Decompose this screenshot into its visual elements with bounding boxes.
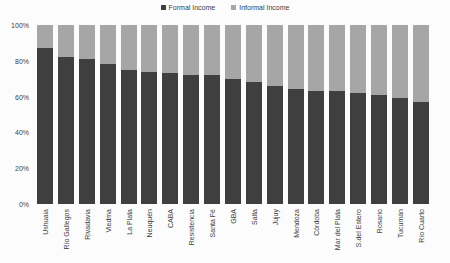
bar-segment-informal bbox=[267, 25, 283, 86]
bar-segment-informal bbox=[100, 25, 116, 64]
bar-segment-formal bbox=[308, 91, 324, 204]
plot-area bbox=[37, 25, 429, 204]
bar-segment-informal bbox=[204, 25, 220, 75]
x-axis-label: Mendoza bbox=[292, 209, 299, 238]
bar-segment-formal bbox=[288, 89, 304, 204]
y-tick-label: 80% bbox=[0, 57, 29, 64]
bar-segment-informal bbox=[350, 25, 366, 93]
x-label-cell: Neuquén bbox=[141, 209, 157, 263]
x-label-cell: Rivadavia bbox=[79, 209, 95, 263]
x-axis-label: S.del Estero bbox=[355, 209, 362, 247]
bar-segment-formal bbox=[58, 57, 74, 204]
bar-segment-formal bbox=[162, 73, 178, 204]
x-axis-label: Resistencia bbox=[188, 209, 195, 245]
x-label-cell: GBA bbox=[225, 209, 241, 263]
bars-area bbox=[37, 25, 429, 204]
x-axis-label: Rivadavia bbox=[83, 209, 90, 240]
stacked-bar bbox=[350, 25, 366, 204]
legend: Formal Income Informal Income bbox=[0, 4, 450, 11]
x-label-cell: Tucumán bbox=[392, 209, 408, 263]
bar-segment-formal bbox=[267, 86, 283, 204]
bar-segment-informal bbox=[392, 25, 408, 98]
bar-segment-informal bbox=[121, 25, 137, 70]
stacked-bar bbox=[267, 25, 283, 204]
stacked-bar bbox=[37, 25, 53, 204]
stacked-bar bbox=[413, 25, 429, 204]
legend-item-formal: Formal Income bbox=[161, 4, 216, 11]
legend-item-informal: Informal Income bbox=[231, 4, 289, 11]
stacked-bar bbox=[100, 25, 116, 204]
x-axis-label: Salta bbox=[250, 209, 257, 225]
x-label-cell: Río Gallegos bbox=[58, 209, 74, 263]
x-axis-label: Viedma bbox=[104, 209, 111, 233]
bar-segment-formal bbox=[225, 79, 241, 204]
x-label-cell: Mar del Plata bbox=[329, 209, 345, 263]
x-axis-label: Ushuaia bbox=[42, 209, 49, 235]
y-tick-label: 60% bbox=[0, 93, 29, 100]
x-axis-label: Mar del Plata bbox=[334, 209, 341, 250]
bar-segment-formal bbox=[392, 98, 408, 204]
bar-segment-formal bbox=[246, 82, 262, 204]
bar-segment-informal bbox=[329, 25, 345, 91]
bar-segment-formal bbox=[350, 93, 366, 204]
bar-segment-informal bbox=[183, 25, 199, 75]
x-label-cell: Santa Fé bbox=[204, 209, 220, 263]
bar-segment-formal bbox=[204, 75, 220, 204]
x-axis-label: Río Gallegos bbox=[62, 209, 69, 249]
bar-segment-informal bbox=[371, 25, 387, 95]
bar-segment-formal bbox=[79, 59, 95, 204]
stacked-bar bbox=[288, 25, 304, 204]
stacked-bar bbox=[371, 25, 387, 204]
x-axis-label: Neuquén bbox=[146, 209, 153, 237]
x-label-cell: Resistencia bbox=[183, 209, 199, 263]
x-label-cell: Ushuaia bbox=[37, 209, 53, 263]
x-label-cell: La Plata bbox=[121, 209, 137, 263]
stacked-bar bbox=[308, 25, 324, 204]
x-axis-label: Jujuy bbox=[271, 209, 278, 225]
stacked-bar bbox=[79, 25, 95, 204]
y-tick-label: 40% bbox=[0, 129, 29, 136]
x-axis-label: Córdoba bbox=[313, 209, 320, 236]
bar-segment-informal bbox=[79, 25, 95, 59]
chart-canvas: Formal Income Informal Income 0%20%40%60… bbox=[0, 0, 450, 263]
bar-segment-formal bbox=[371, 95, 387, 204]
bar-segment-informal bbox=[246, 25, 262, 82]
x-label-cell: Salta bbox=[246, 209, 262, 263]
stacked-bar bbox=[141, 25, 157, 204]
bar-segment-informal bbox=[162, 25, 178, 73]
stacked-bar bbox=[183, 25, 199, 204]
bar-segment-informal bbox=[37, 25, 53, 48]
y-tick-label: 20% bbox=[0, 165, 29, 172]
formal-income-swatch-icon bbox=[161, 5, 166, 10]
bar-segment-informal bbox=[58, 25, 74, 57]
x-label-cell: Mendoza bbox=[288, 209, 304, 263]
x-axis-label: CABA bbox=[167, 209, 174, 228]
stacked-bar bbox=[225, 25, 241, 204]
x-label-cell: S.del Estero bbox=[350, 209, 366, 263]
stacked-bar bbox=[204, 25, 220, 204]
bar-segment-formal bbox=[413, 102, 429, 204]
bar-segment-formal bbox=[37, 48, 53, 204]
bar-segment-formal bbox=[141, 72, 157, 204]
x-label-cell: Rosario bbox=[371, 209, 387, 263]
informal-income-swatch-icon bbox=[231, 5, 236, 10]
bar-segment-formal bbox=[100, 64, 116, 204]
bar-segment-formal bbox=[329, 91, 345, 204]
x-axis-label: Tucumán bbox=[396, 209, 403, 238]
x-label-cell: CABA bbox=[162, 209, 178, 263]
bar-segment-formal bbox=[121, 70, 137, 204]
legend-label-informal: Informal Income bbox=[239, 4, 289, 11]
legend-label-formal: Formal Income bbox=[169, 4, 216, 11]
x-axis-label: GBA bbox=[229, 209, 236, 224]
bar-segment-informal bbox=[288, 25, 304, 89]
x-axis-labels: UshuaiaRío GallegosRivadaviaViedmaLa Pla… bbox=[37, 209, 429, 263]
x-label-cell: Río Cuarto bbox=[413, 209, 429, 263]
stacked-bar bbox=[58, 25, 74, 204]
x-label-cell: Viedma bbox=[100, 209, 116, 263]
x-label-cell: Córdoba bbox=[308, 209, 324, 263]
y-tick-label: 0% bbox=[0, 201, 29, 208]
bar-segment-informal bbox=[308, 25, 324, 91]
stacked-bar bbox=[392, 25, 408, 204]
stacked-bar bbox=[162, 25, 178, 204]
x-axis-label: Rosario bbox=[376, 209, 383, 233]
